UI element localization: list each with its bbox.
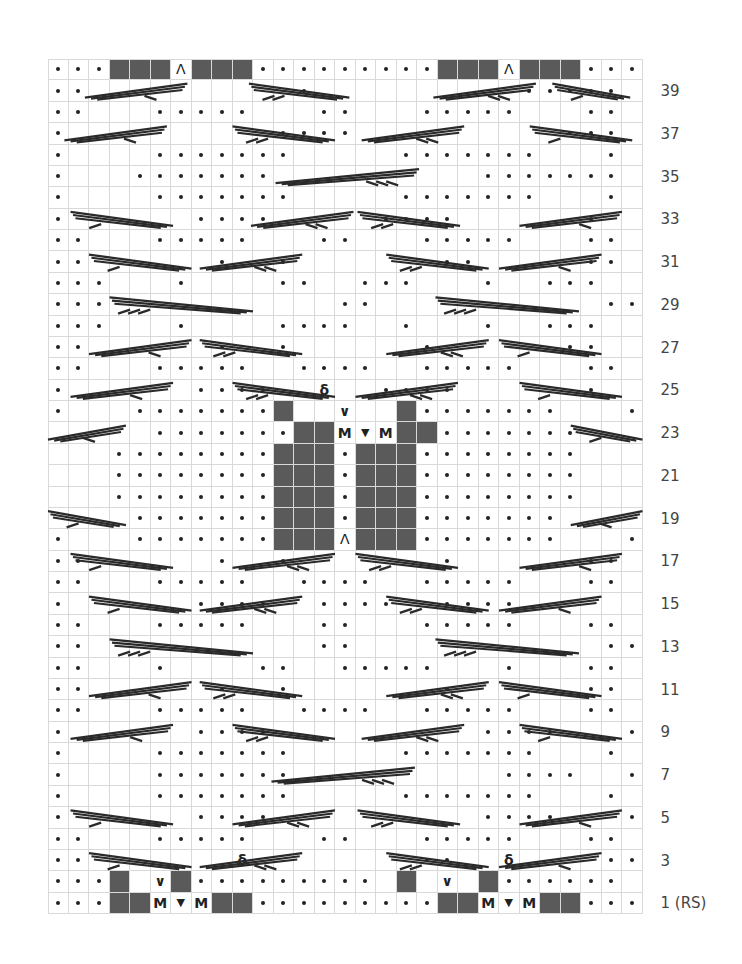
cable-crossing-icon — [233, 554, 336, 570]
row-number-label: 25 — [661, 381, 680, 399]
cable-crossing-icon — [85, 84, 187, 100]
cable-crossing-icon — [520, 725, 623, 741]
cable-crossing-icon — [251, 212, 354, 228]
cable-crossing-icon — [89, 682, 192, 698]
row-number-label: 7 — [661, 766, 671, 784]
cable-crossing-icon — [64, 126, 166, 142]
cable-crossing-icon — [386, 853, 489, 869]
cable-crossing-icon — [499, 255, 602, 271]
row-number-label: 11 — [661, 681, 680, 699]
cable-crossing-icon — [110, 297, 254, 313]
cable-crossing-icon — [499, 597, 602, 613]
cable-crossing-icon — [71, 725, 174, 741]
cable-crossing-icon — [71, 212, 174, 228]
cable-crossing-icon — [386, 597, 489, 613]
cable-crossing-icon — [200, 255, 303, 271]
cable-crossing-icon — [435, 297, 579, 313]
row-number-label: 1 (RS) — [661, 894, 707, 912]
cable-crossing-icon — [48, 511, 126, 527]
cable-crossing-icon — [71, 810, 174, 826]
cable-crossing-icon — [200, 597, 303, 613]
row-number-label: 3 — [661, 852, 671, 870]
cable-crossing-icon — [520, 212, 623, 228]
row-number-label: 31 — [661, 253, 680, 271]
row-number-label: 27 — [661, 339, 680, 357]
cable-crossing-icon — [89, 255, 192, 271]
row-number-label: 21 — [661, 467, 680, 485]
cable-crossing-icon — [356, 383, 459, 399]
cable-crossing-icon — [200, 340, 303, 356]
row-number-label: 9 — [661, 723, 671, 741]
row-number-label: 37 — [661, 125, 680, 143]
row-number-label: 29 — [661, 296, 680, 314]
row-number-label: 17 — [661, 552, 680, 570]
cable-overlay — [48, 59, 643, 914]
cable-crossing-icon — [89, 340, 192, 356]
cable-crossing-icon — [571, 511, 643, 527]
row-number-label: 5 — [661, 809, 671, 827]
cable-crossing-icon — [233, 725, 336, 741]
cable-crossing-icon — [520, 810, 623, 826]
cable-crossing-icon — [499, 340, 602, 356]
cable-crossing-icon — [435, 639, 579, 655]
cable-crossing-icon — [499, 853, 602, 869]
cable-crossing-icon — [520, 383, 623, 399]
cable-crossing-icon — [552, 84, 630, 100]
cable-crossing-icon — [362, 725, 465, 741]
cable-crossing-icon — [200, 682, 303, 698]
cable-crossing-icon — [530, 126, 633, 142]
cable-crossing-icon — [571, 426, 643, 442]
cable-crossing-icon — [200, 853, 303, 869]
cable-crossing-icon — [110, 639, 254, 655]
cable-crossing-icon — [71, 383, 174, 399]
cable-crossing-icon — [499, 682, 602, 698]
cable-crossing-icon — [433, 84, 536, 100]
cable-crossing-icon — [276, 169, 420, 185]
cable-crossing-icon — [520, 554, 623, 570]
cable-crossing-icon — [362, 126, 465, 142]
cable-crossing-icon — [358, 212, 461, 228]
cable-crossing-icon — [48, 426, 126, 442]
row-number-label: 15 — [661, 595, 680, 613]
row-number-label: 23 — [661, 424, 680, 442]
cable-crossing-icon — [386, 255, 489, 271]
cable-crossing-icon — [358, 810, 461, 826]
row-number-label: 13 — [661, 638, 680, 656]
cable-crossing-icon — [356, 554, 459, 570]
row-number-label: 33 — [661, 210, 680, 228]
cable-crossing-icon — [386, 682, 489, 698]
row-number-label: 35 — [661, 168, 680, 186]
cable-crossing-icon — [249, 84, 349, 100]
cable-crossing-icon — [386, 340, 489, 356]
cable-crossing-icon — [71, 554, 174, 570]
cable-crossing-icon — [233, 383, 336, 399]
cable-crossing-icon — [89, 853, 192, 869]
row-number-label: 39 — [661, 82, 680, 100]
cable-crossing-icon — [89, 597, 192, 613]
row-number-label: 19 — [661, 510, 680, 528]
cable-crossing-icon — [233, 810, 336, 826]
cable-crossing-icon — [233, 126, 336, 142]
cable-crossing-icon — [271, 768, 415, 784]
